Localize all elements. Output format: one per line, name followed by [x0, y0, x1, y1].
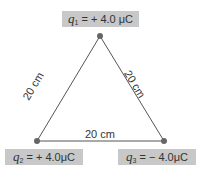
charge-subscript: 2: [19, 157, 23, 164]
charge-label-q1: q1 = + 4.0 μC: [62, 11, 139, 27]
charge-label-q3: q3 = − 4.0μC: [118, 149, 196, 165]
distance-label-bottom: 20 cm: [85, 128, 115, 140]
charge-unit: μC: [61, 151, 75, 163]
charge-subscript: 3: [132, 157, 136, 164]
charge-label-q2: q2 = + 4.0μC: [5, 149, 83, 165]
side-left: [37, 36, 100, 141]
charge-unit: μC: [174, 151, 188, 163]
triangle-charge-diagram: q1 = + 4.0 μC q2 = + 4.0μC q3 = − 4.0μC …: [0, 0, 199, 173]
charge-dot-q1: [97, 33, 103, 39]
charge-value: = + 4.0: [26, 151, 60, 163]
charge-value: = + 4.0: [81, 13, 115, 25]
charge-value: = − 4.0: [139, 151, 173, 163]
charge-subscript: 1: [74, 19, 78, 26]
charge-dot-q3: [161, 138, 167, 144]
charge-dot-q2: [34, 138, 40, 144]
charge-unit: μC: [119, 13, 133, 25]
